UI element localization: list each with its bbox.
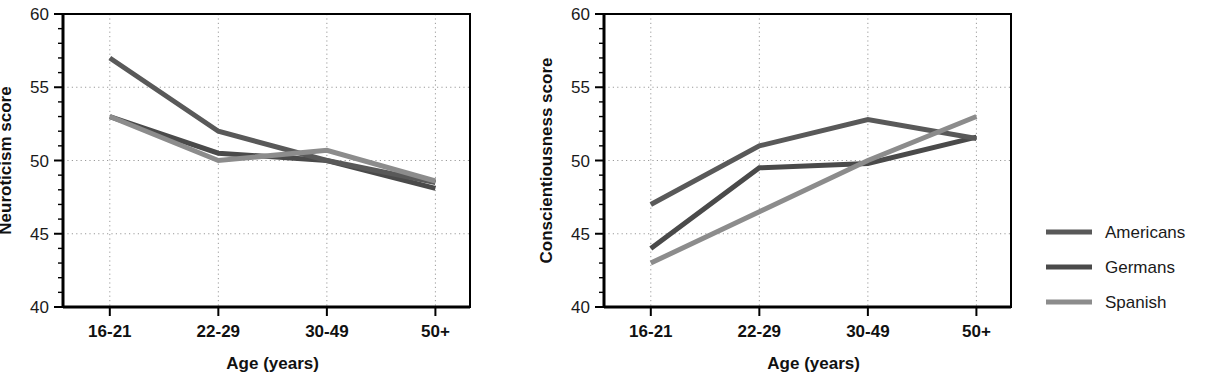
y-tick-label: 40 <box>30 298 49 317</box>
x-tick-label: 50+ <box>962 322 991 341</box>
y-axis-title: Conscientiousness score <box>537 58 556 264</box>
x-tick-label: 30-49 <box>305 322 348 341</box>
x-tick-label: 16-21 <box>629 322 672 341</box>
chart-panel-0: 404550556016-2122-2930-4950+Age (years)N… <box>0 5 470 373</box>
x-tick-label: 50+ <box>421 322 450 341</box>
y-axis-title: Neuroticism score <box>0 86 15 234</box>
x-tick-label: 22-29 <box>738 322 781 341</box>
legend-label-spanish: Spanish <box>1105 293 1166 312</box>
y-tick-label: 55 <box>571 78 590 97</box>
y-tick-label: 45 <box>30 225 49 244</box>
x-axis-title: Age (years) <box>226 354 319 373</box>
y-tick-label: 50 <box>571 152 590 171</box>
y-tick-label: 40 <box>571 298 590 317</box>
x-tick-label: 22-29 <box>197 322 240 341</box>
two-panel-line-chart-figure: 404550556016-2122-2930-4950+Age (years)N… <box>0 0 1205 381</box>
x-tick-label: 30-49 <box>846 322 889 341</box>
legend-label-americans: Americans <box>1105 223 1185 242</box>
legend: AmericansGermansSpanish <box>1046 223 1185 312</box>
x-axis-title: Age (years) <box>767 354 860 373</box>
y-tick-label: 60 <box>30 5 49 24</box>
chart-panel-1: 404550556016-2122-2930-4950+Age (years)C… <box>537 5 1011 373</box>
y-tick-label: 45 <box>571 225 590 244</box>
y-tick-label: 50 <box>30 152 49 171</box>
x-tick-label: 16-21 <box>88 322 131 341</box>
figure-canvas: 404550556016-2122-2930-4950+Age (years)N… <box>0 0 1205 381</box>
y-tick-label: 55 <box>30 78 49 97</box>
legend-label-germans: Germans <box>1105 258 1175 277</box>
y-tick-label: 60 <box>571 5 590 24</box>
